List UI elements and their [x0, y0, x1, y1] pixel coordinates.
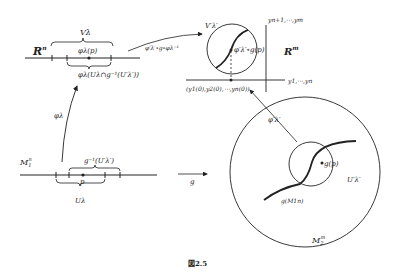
figure-caption: 図2.5 — [188, 259, 207, 268]
p-point — [81, 173, 84, 176]
v-prime-label: V′λ′ — [205, 22, 218, 30]
rn-label: Rn — [32, 44, 47, 58]
phi-lambda-label: φλ — [54, 112, 63, 120]
transition-map-label: φ′λ′∘g∘φλ⁻¹ — [145, 44, 179, 52]
g-inv-label: g⁻¹(U′λ′) — [84, 157, 114, 165]
g-m1-curve — [264, 141, 356, 200]
phi-prime-label: φ′λ′ — [268, 116, 281, 124]
y0-label: (y1(0),y2(0),⋯,yn(0)) — [186, 85, 250, 93]
phi-p-label: φλ(p) — [78, 47, 98, 55]
g-label: g — [190, 178, 195, 186]
phi-u-brace — [67, 62, 111, 69]
u-prime-label: U′λ′ — [347, 176, 361, 184]
g-inv-brace — [69, 165, 120, 171]
g-m1-label: g(M1n) — [281, 197, 304, 205]
u-lambda-label: Uλ — [75, 197, 85, 205]
v-lambda-brace — [51, 38, 113, 46]
y0-point — [230, 79, 233, 82]
phi-p-point — [87, 56, 90, 59]
m2-circle — [230, 97, 380, 247]
y-lower-label: y1,⋯,yn — [287, 77, 312, 85]
m2-label: M2m — [311, 234, 325, 246]
p-label: p — [80, 178, 85, 186]
phi-lambda-arrow — [62, 86, 77, 162]
rn-axis — [25, 55, 140, 61]
diagram-canvas: Rn Vλ φλ(p) φλ(Uλ∩g⁻¹(U′λ′)) φ′λ′∘g∘φλ⁻¹… — [0, 0, 393, 272]
y-upper-label: yn+1,⋯,ym — [267, 16, 303, 24]
m1-axis — [20, 172, 157, 178]
phi-u-label: φλ(Uλ∩g⁻¹(U′λ′)) — [78, 71, 139, 79]
rm-label: Rm — [283, 44, 299, 57]
v-lambda-label: Vλ — [80, 28, 91, 37]
m1-label: M1n — [19, 156, 32, 168]
g-p-label: g(p) — [324, 160, 339, 168]
phi-prime-g-p-label: φ′λ′∘g(p) — [234, 46, 265, 54]
